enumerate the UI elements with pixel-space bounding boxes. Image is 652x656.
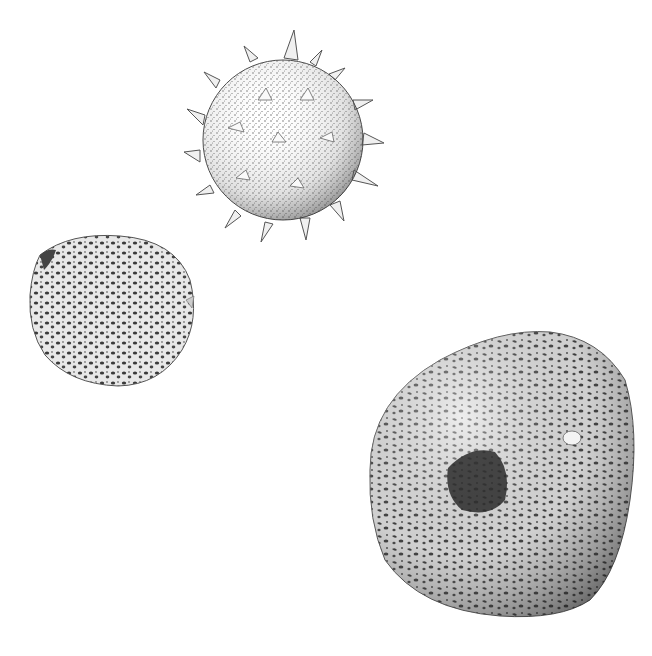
small-reticulate-pollen-grain	[30, 235, 194, 386]
spiny-pollen-grain	[184, 30, 384, 242]
large-reticulate-pollen-grain	[370, 332, 634, 617]
pollen-illustration	[0, 0, 652, 656]
